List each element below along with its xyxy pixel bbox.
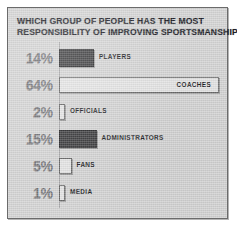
bar-coaches: COACHES: [59, 77, 219, 93]
bar-category-label: MEDIA: [70, 189, 92, 195]
bar-row: 64%COACHES: [17, 71, 218, 98]
bar-value-label: 5%: [17, 159, 59, 173]
bar-track: MEDIA: [59, 179, 218, 206]
bar-rows: 14%PLAYERS64%COACHES2%OFFICIALS15%ADMINI…: [17, 44, 218, 206]
bar-administrators: [59, 130, 97, 148]
bar-media: [59, 185, 65, 201]
chart-plate: WHICH GROUP OF PEOPLE HAS THE MOST RESPO…: [8, 8, 227, 218]
chart-frame: WHICH GROUP OF PEOPLE HAS THE MOST RESPO…: [7, 7, 228, 219]
bar-fans: [59, 158, 72, 174]
chart-title: WHICH GROUP OF PEOPLE HAS THE MOST RESPO…: [17, 16, 218, 37]
chart-title-line-1: WHICH GROUP OF PEOPLE HAS THE MOST: [17, 16, 218, 27]
bar-value-label: 2%: [17, 105, 59, 119]
bar-category-label: FANS: [77, 162, 95, 168]
bar-track: COACHES: [59, 71, 219, 98]
bar-row: 5%FANS: [17, 152, 218, 179]
bar-category-label: PLAYERS: [99, 54, 131, 60]
chart-figure: WHICH GROUP OF PEOPLE HAS THE MOST RESPO…: [0, 0, 237, 238]
bar-value-label: 64%: [17, 78, 59, 92]
bar-track: ADMINISTRATORS: [59, 125, 218, 152]
bar-value-label: 15%: [17, 132, 59, 146]
bar-officials: [59, 104, 65, 120]
bar-value-label: 1%: [17, 186, 59, 200]
bar-row: 2%OFFICIALS: [17, 98, 218, 125]
bar-row: 1%MEDIA: [17, 179, 218, 206]
chart-title-line-2: RESPONSIBILITY OF IMPROVING SPORTSMANSHI…: [17, 27, 218, 38]
bar-row: 14%PLAYERS: [17, 44, 218, 71]
bar-track: FANS: [59, 152, 218, 179]
bar-category-label: OFFICIALS: [70, 108, 107, 114]
bar-category-label: ADMINISTRATORS: [102, 135, 164, 141]
bar-track: PLAYERS: [59, 44, 218, 71]
bar-track: OFFICIALS: [59, 98, 218, 125]
bar-category-label: COACHES: [177, 81, 211, 87]
bar-players: [59, 49, 94, 67]
bar-row: 15%ADMINISTRATORS: [17, 125, 218, 152]
bar-value-label: 14%: [17, 51, 59, 65]
